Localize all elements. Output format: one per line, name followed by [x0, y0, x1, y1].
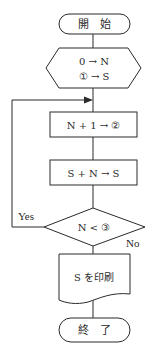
end-label: 終 了	[78, 323, 111, 337]
init-line2: ① → S	[79, 71, 110, 82]
step1-label: N + 1 → ②	[67, 120, 121, 131]
loop-arrowhead-icon	[84, 97, 93, 104]
output-label: S を印刷	[74, 272, 114, 283]
decision-label: N < ③	[78, 222, 111, 233]
flowchart: 開 始 0 → N ① → S N + 1 → ② S + N → S N < …	[0, 0, 159, 356]
yes-label: Yes	[18, 210, 34, 222]
init-preparation	[46, 48, 141, 88]
start-label: 開 始	[78, 17, 111, 31]
no-label: No	[126, 237, 140, 249]
init-line1: 0 → N	[79, 56, 109, 67]
step2-label: S + N → S	[68, 168, 120, 179]
